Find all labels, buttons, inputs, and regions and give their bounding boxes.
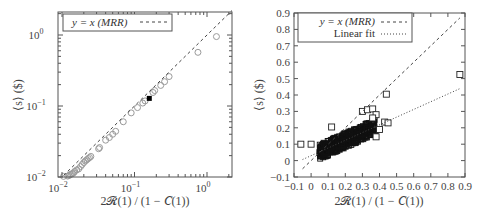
svg-text:10−2: 10−2	[48, 180, 68, 194]
svg-text:0.5: 0.5	[276, 73, 290, 85]
svg-text:100: 100	[29, 27, 44, 41]
data-point	[213, 34, 219, 40]
left-x-axis-label: 2𝓡(1) / (1 − 𝐶(1))	[100, 194, 189, 208]
right-legend-label-fit: Linear fit	[334, 27, 375, 39]
right-x-axis-label: 2𝓡(1) / (1 − 𝐶(1))	[334, 194, 423, 208]
left-legend-label: y = x (MRR)	[71, 16, 128, 29]
right-y-axis-label: ⟨s⟩ ($)	[252, 79, 266, 111]
svg-text:10−2: 10−2	[26, 169, 46, 183]
svg-text:10−1: 10−1	[26, 98, 46, 112]
data-point	[158, 82, 164, 88]
svg-text:0.6: 0.6	[407, 180, 421, 192]
left-scatter-points	[61, 34, 220, 180]
svg-text:0.5: 0.5	[390, 180, 404, 192]
data-point	[373, 134, 379, 140]
svg-text:0.7: 0.7	[276, 40, 290, 52]
left-chart: 10−210−210−110−1100100 y = x (MRR) 2𝓡(1)…	[0, 0, 244, 219]
data-point	[370, 115, 376, 121]
svg-text:100: 100	[196, 180, 211, 194]
svg-text:0.9: 0.9	[276, 7, 290, 19]
right-scatter-points	[298, 72, 463, 162]
svg-text:0: 0	[285, 155, 291, 167]
svg-text:0.8: 0.8	[441, 180, 455, 192]
svg-text:0: 0	[308, 180, 314, 192]
svg-text:−0.1: −0.1	[270, 171, 290, 183]
svg-text:0.3: 0.3	[276, 105, 290, 117]
svg-text:0.8: 0.8	[276, 23, 290, 35]
svg-text:0.1: 0.1	[276, 138, 290, 150]
left-legend: y = x (MRR)	[63, 14, 172, 31]
data-point	[329, 124, 335, 130]
svg-text:10−1: 10−1	[121, 180, 141, 194]
svg-text:0.2: 0.2	[276, 122, 290, 134]
data-point	[377, 126, 383, 132]
svg-text:0.1: 0.1	[321, 180, 335, 192]
data-point	[383, 91, 389, 97]
data-point	[162, 79, 168, 85]
svg-text:0.6: 0.6	[276, 56, 290, 68]
data-point	[308, 141, 314, 147]
right-chart-panel: −0.1−0.1000.10.10.20.20.30.30.40.40.50.5…	[244, 0, 488, 219]
right-chart: −0.1−0.1000.10.10.20.20.30.30.40.40.50.5…	[244, 0, 488, 219]
highlight-point	[147, 96, 152, 101]
right-legend: y = x (MRR) Linear fit	[298, 13, 412, 42]
data-point	[457, 72, 463, 78]
left-y-axis-label: ⟨s⟩ ($)	[11, 79, 25, 111]
data-point	[370, 106, 376, 112]
svg-text:0.3: 0.3	[356, 180, 370, 192]
svg-text:0.4: 0.4	[373, 180, 387, 192]
svg-text:0.2: 0.2	[338, 180, 352, 192]
left-reference-line	[64, 11, 232, 176]
left-axis-ticks: 10−210−210−110−1100100	[26, 12, 232, 194]
data-point	[195, 49, 201, 55]
svg-text:0.4: 0.4	[276, 89, 290, 101]
svg-text:0.9: 0.9	[458, 180, 472, 192]
svg-text:0.7: 0.7	[424, 180, 438, 192]
data-point	[298, 141, 304, 147]
data-point	[135, 105, 141, 111]
left-chart-panel: 10−210−210−110−1100100 y = x (MRR) 2𝓡(1)…	[0, 0, 244, 219]
